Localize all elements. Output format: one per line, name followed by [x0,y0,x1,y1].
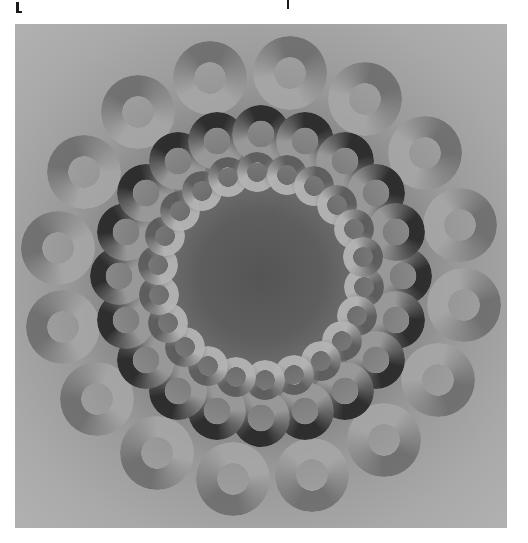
ring-outer [401,343,475,417]
crop-mark-bar [287,0,289,9]
ring-outer [423,188,497,262]
ring-outer [47,135,121,209]
ring-outer [26,290,100,364]
ring-outer [21,211,95,285]
ring-outer [253,36,327,110]
ring-outer [196,442,270,516]
ring-outer [120,416,194,490]
ring-outer [427,268,501,342]
ring-outer [173,41,247,115]
artwork-panel: Concentric rings of shaded annuli on a g… [15,24,507,528]
crop-mark-bracket-foot [16,11,22,13]
artwork-description: Concentric rings of shaded annuli on a g… [15,24,16,25]
ring-outer [275,438,349,512]
ring-outer [328,62,402,136]
